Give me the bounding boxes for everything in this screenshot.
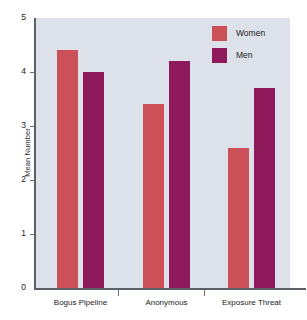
y-tick-mark bbox=[30, 234, 34, 235]
legend-label: Women bbox=[236, 29, 265, 38]
y-tick-mark bbox=[30, 126, 34, 127]
y-tick-label: 5 bbox=[0, 13, 26, 22]
y-tick-mark bbox=[30, 72, 34, 73]
y-tick-label: 1 bbox=[0, 229, 26, 238]
x-axis-separator-tick bbox=[204, 290, 205, 296]
y-axis-title: Mean Number bbox=[23, 103, 32, 203]
y-tick-label: 4 bbox=[0, 67, 26, 76]
bar-men-anonymous bbox=[169, 61, 190, 288]
x-tick-label-exposure-threat: Exposure Threat bbox=[192, 298, 307, 307]
y-tick-label: 2 bbox=[0, 175, 26, 184]
bar-women-bogus-pipeline bbox=[57, 50, 78, 288]
bar-women-exposure-threat bbox=[228, 148, 249, 288]
y-tick-label: 0 bbox=[0, 283, 26, 292]
y-axis-line bbox=[34, 18, 36, 289]
legend-item-women: Women bbox=[212, 26, 265, 41]
bar-women-anonymous bbox=[143, 104, 164, 288]
x-axis-separator-tick bbox=[118, 290, 119, 296]
y-tick-mark bbox=[30, 180, 34, 181]
legend-label: Men bbox=[236, 51, 253, 60]
bar-men-exposure-threat bbox=[254, 88, 275, 288]
x-axis-line bbox=[34, 288, 306, 290]
y-tick-label: 3 bbox=[0, 121, 26, 130]
legend-item-men: Men bbox=[212, 48, 265, 63]
legend: WomenMen bbox=[212, 26, 265, 70]
legend-swatch-men bbox=[212, 48, 227, 63]
bar-men-bogus-pipeline bbox=[83, 72, 104, 288]
legend-swatch-women bbox=[212, 26, 227, 41]
bar-chart: Mean Number 012345 Bogus PipelineAnonymo… bbox=[0, 0, 306, 320]
